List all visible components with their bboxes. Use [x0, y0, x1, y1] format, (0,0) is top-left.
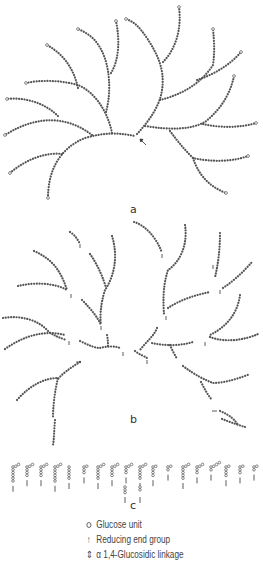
- panel-a-molecule: [4, 6, 258, 200]
- legend-item-linkage: ⇕ α 1,4-Glucosidic linkage: [84, 547, 184, 562]
- legend: Glucose unit ↑ Reducing end group ⇕ α 1,…: [84, 517, 184, 562]
- arrow-up-icon: ↑: [84, 532, 94, 547]
- legend-label: Reducing end group: [96, 532, 170, 547]
- legend-label: Glucose unit: [96, 517, 142, 532]
- panel-label-a: a: [130, 203, 137, 216]
- legend-item-reducing-end: ↑ Reducing end group: [84, 532, 184, 547]
- panel-b-fragments: [3, 222, 258, 445]
- panel-label-b: b: [130, 413, 137, 426]
- panel-c-oligosaccharides: [12, 461, 258, 503]
- legend-item-glucose: Glucose unit: [84, 517, 184, 532]
- linkage-icon: ⇕: [84, 547, 94, 562]
- legend-label: α 1,4-Glucosidic linkage: [96, 547, 183, 562]
- circle-icon: [84, 517, 94, 532]
- panel-label-c: c: [130, 499, 136, 512]
- polysaccharide-structure-diagram: [0, 0, 263, 563]
